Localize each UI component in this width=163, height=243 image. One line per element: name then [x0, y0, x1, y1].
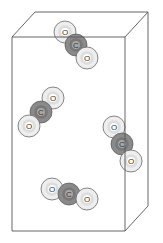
oxygen-label: O	[84, 54, 90, 63]
oxygen-label: O	[50, 94, 56, 103]
co2-molecules: OCOOCOOCOOCO	[18, 21, 142, 210]
molecule-left: OCO	[18, 87, 64, 137]
box-edge-top-left-depth	[12, 12, 35, 37]
oxygen-label: O	[62, 28, 68, 37]
molecule-bottom: OCO	[41, 178, 98, 210]
box-edge-bottom-right-depth	[125, 206, 148, 231]
oxygen-atom: O	[76, 47, 98, 69]
carbon-label: C	[38, 108, 44, 117]
oxygen-label: O	[111, 123, 117, 132]
oxygen-atom: O	[18, 115, 40, 137]
molecule-right: OCO	[103, 116, 142, 172]
carbon-label: C	[73, 41, 79, 50]
oxygen-atom: O	[120, 150, 142, 172]
oxygen-label: O	[49, 185, 55, 194]
carbon-label: C	[119, 140, 125, 149]
oxygen-label: O	[128, 157, 134, 166]
carbon-label: C	[66, 190, 72, 199]
oxygen-label: O	[26, 122, 32, 131]
box-edge-top-right-depth	[125, 12, 148, 37]
co2-container-diagram: OCOOCOOCOOCO	[0, 0, 163, 243]
oxygen-label: O	[84, 195, 90, 204]
oxygen-atom: O	[76, 188, 98, 210]
molecule-top: OCO	[54, 21, 98, 69]
